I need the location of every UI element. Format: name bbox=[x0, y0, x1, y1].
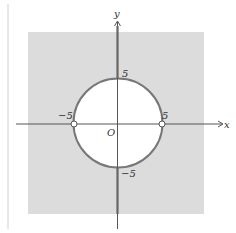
tick-y-pos: 5 bbox=[122, 68, 128, 79]
tick-x-neg: −5 bbox=[58, 110, 73, 121]
diagram: y x O 5 −5 −5 5 bbox=[0, 0, 236, 233]
open-point-neg5 bbox=[71, 121, 77, 127]
tick-x-pos: 5 bbox=[162, 110, 168, 121]
x-axis-label: x bbox=[224, 119, 230, 130]
tick-y-neg: −5 bbox=[121, 168, 136, 179]
open-point-pos5 bbox=[159, 121, 165, 127]
y-axis-label: y bbox=[113, 8, 120, 19]
origin-label: O bbox=[107, 127, 115, 138]
